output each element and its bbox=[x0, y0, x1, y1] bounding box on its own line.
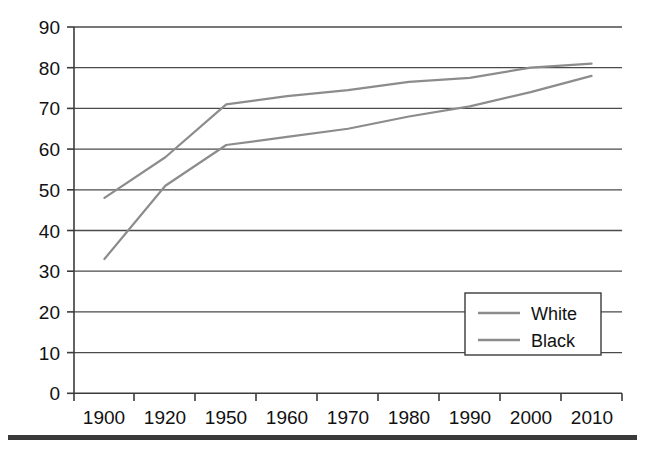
line-chart-figure: 90 80 70 60 50 40 30 20 10 0 1900 bbox=[0, 0, 645, 450]
legend-label-white: White bbox=[531, 304, 577, 324]
x-tick-label-1900: 1900 bbox=[83, 407, 125, 428]
x-tick-label-2000: 2000 bbox=[510, 407, 552, 428]
legend-label-black: Black bbox=[531, 331, 576, 351]
x-tick-label-1980: 1980 bbox=[388, 407, 430, 428]
y-tick-label-90: 90 bbox=[39, 17, 60, 38]
x-tick-label-1990: 1990 bbox=[449, 407, 491, 428]
y-tick-label-50: 50 bbox=[39, 180, 60, 201]
x-tick-label-1960: 1960 bbox=[266, 407, 308, 428]
series-line-black bbox=[104, 76, 591, 259]
y-tick-marks bbox=[67, 27, 74, 393]
y-tick-label-40: 40 bbox=[39, 221, 60, 242]
y-tick-label-10: 10 bbox=[39, 343, 60, 364]
data-series-group bbox=[104, 64, 591, 259]
x-tick-label-2010: 2010 bbox=[571, 407, 613, 428]
y-tick-label-60: 60 bbox=[39, 139, 60, 160]
chart-legend: White Black bbox=[465, 293, 601, 355]
x-tick-label-1920: 1920 bbox=[144, 407, 186, 428]
y-tick-labels: 90 80 70 60 50 40 30 20 10 0 bbox=[39, 17, 60, 404]
y-tick-label-0: 0 bbox=[49, 383, 60, 404]
bottom-divider-rule bbox=[8, 435, 637, 440]
y-tick-label-80: 80 bbox=[39, 58, 60, 79]
x-tick-marks bbox=[74, 393, 622, 401]
x-tick-labels: 1900 1920 1950 1960 1970 1980 1990 2000 … bbox=[83, 407, 613, 428]
y-tick-label-20: 20 bbox=[39, 302, 60, 323]
y-tick-label-70: 70 bbox=[39, 98, 60, 119]
x-tick-label-1970: 1970 bbox=[327, 407, 369, 428]
chart-canvas: 90 80 70 60 50 40 30 20 10 0 1900 bbox=[0, 0, 645, 450]
y-tick-label-30: 30 bbox=[39, 261, 60, 282]
x-tick-label-1950: 1950 bbox=[205, 407, 247, 428]
